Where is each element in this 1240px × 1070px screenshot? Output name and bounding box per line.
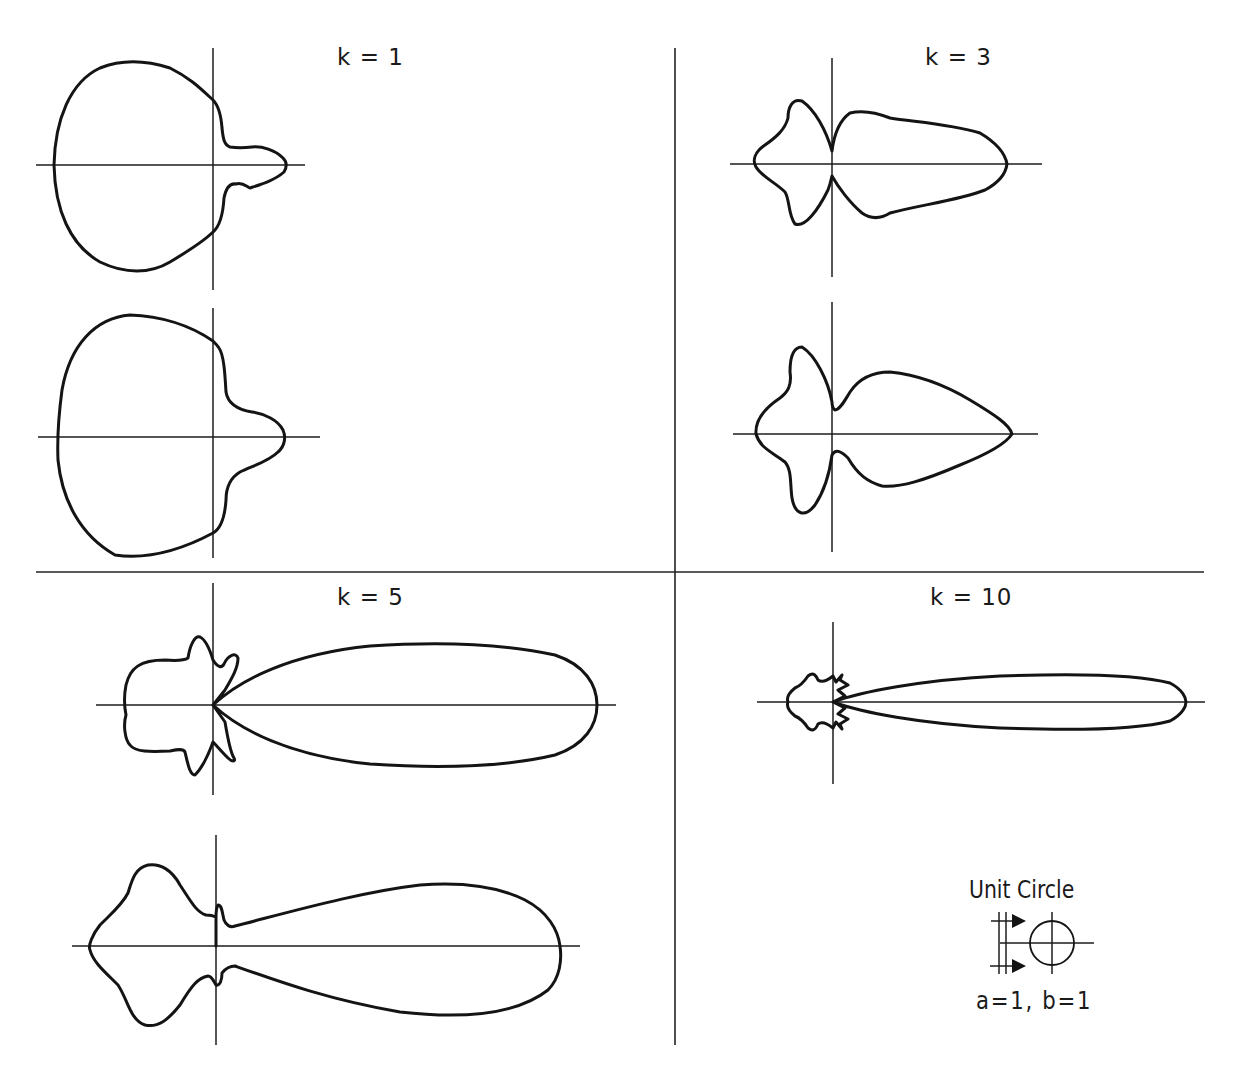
radiation-pattern-curve xyxy=(54,62,286,271)
pattern-plot-k1-1 xyxy=(36,48,305,290)
pattern-plot-k5-1 xyxy=(96,583,616,795)
radiation-pattern-figure xyxy=(0,0,1240,1070)
label-k3: k = 3 xyxy=(925,44,992,70)
label-k1: k = 1 xyxy=(337,44,404,70)
radiation-pattern-curve xyxy=(125,637,598,775)
arrow-head-bottom-icon xyxy=(1012,959,1026,973)
radiation-pattern-curve xyxy=(756,347,1012,513)
radiation-pattern-curve xyxy=(58,315,285,556)
pattern-plot-k3-1 xyxy=(730,58,1042,277)
arrow-head-top-icon xyxy=(1012,914,1026,928)
pattern-plot-k3-2 xyxy=(733,302,1038,552)
pattern-plot-k1-2 xyxy=(38,308,320,558)
legend-title: Unit Circle xyxy=(969,876,1074,904)
label-k10: k = 10 xyxy=(930,584,1012,610)
radiation-pattern-curve xyxy=(89,865,560,1026)
pattern-plot-k5-2 xyxy=(72,835,580,1045)
unit-circle-icon xyxy=(990,912,1094,974)
radiation-pattern-curve xyxy=(754,100,1007,224)
legend-params: a=1, b=1 xyxy=(976,986,1092,1015)
pattern-plot-k10-1 xyxy=(757,622,1205,784)
label-k5: k = 5 xyxy=(337,584,404,610)
